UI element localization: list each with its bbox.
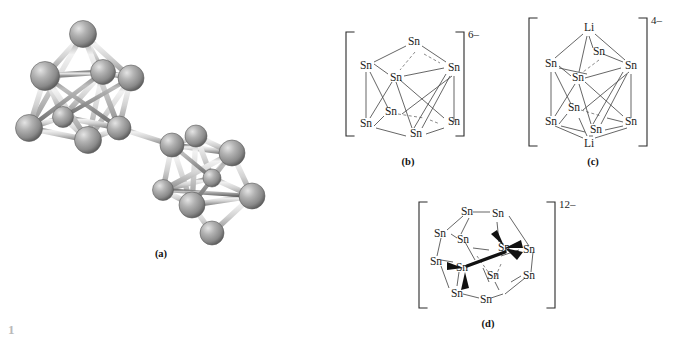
panel-b-label: (b): [388, 156, 428, 167]
atom-label: Sn: [523, 269, 535, 281]
atom-label: Sn: [448, 61, 460, 73]
panel-a-label: (a): [141, 248, 181, 259]
atom-label-li: Li: [584, 21, 594, 33]
atom-label: Sn: [572, 71, 584, 83]
cluster-3d-model: [0, 0, 330, 290]
left-bracket: [419, 202, 427, 308]
atom-label-li: Li: [584, 137, 594, 149]
atom-label: Sn: [385, 105, 397, 117]
panel-d-icosahedral-cage: Sn Sn Sn Sn Sn Sn Sn Sn Sn Sn Sn Sn 12–: [405, 190, 585, 315]
atom-label: Sn: [434, 227, 446, 239]
bond-network: [437, 212, 533, 298]
atom-label: Sn: [487, 269, 499, 281]
left-bracket: [529, 18, 537, 146]
panel-d-label: (d): [468, 318, 508, 329]
atom-label: Sn: [360, 59, 372, 71]
bold-bond: [467, 252, 505, 266]
atom-label: Sn: [461, 205, 473, 217]
atom-label: Sn: [593, 45, 605, 57]
panel-a-ball-and-stick: [0, 0, 330, 290]
panel-b-square-antiprism: Sn Sn Sn Sn Sn Sn Sn Sn 6–: [340, 18, 480, 148]
atom-label: Sn: [408, 35, 420, 47]
charge-label-d: 12–: [559, 198, 576, 210]
atom-label: Sn: [430, 255, 442, 267]
atom-label: Sn: [590, 123, 602, 135]
atom-label: Sn: [625, 59, 637, 71]
atom-label: Sn: [492, 207, 504, 219]
atom-label: Sn: [360, 117, 372, 129]
left-bracket: [346, 32, 354, 136]
atom-label: Sn: [523, 243, 535, 255]
charge-label-c: 4–: [651, 14, 663, 26]
atom-label: Sn: [448, 115, 460, 127]
atom-label: Sn: [545, 57, 557, 69]
panel-c-label: (c): [573, 156, 613, 167]
atom-label: Sn: [545, 115, 557, 127]
atom-label: Sn: [625, 115, 637, 127]
atom-label: Sn: [568, 101, 580, 113]
right-bracket: [547, 202, 555, 308]
panel-c-lithium-capped-antiprism: Li Sn Sn Sn Sn Sn Sn Sn Sn Li 4–: [515, 6, 665, 154]
atom-label: Sn: [457, 233, 469, 245]
atom-label: Sn: [410, 127, 422, 139]
atom-label: Sn: [390, 71, 402, 83]
atom-label: Sn: [498, 241, 510, 253]
atom-label: Sn: [480, 293, 492, 305]
atom-label: Sn: [451, 287, 463, 299]
right-bracket: [639, 18, 647, 146]
atom-label: Sn: [456, 261, 468, 273]
bond-network: [366, 46, 454, 136]
charge-label-b: 6–: [468, 28, 480, 40]
figure-number-mark: 1: [8, 322, 34, 340]
